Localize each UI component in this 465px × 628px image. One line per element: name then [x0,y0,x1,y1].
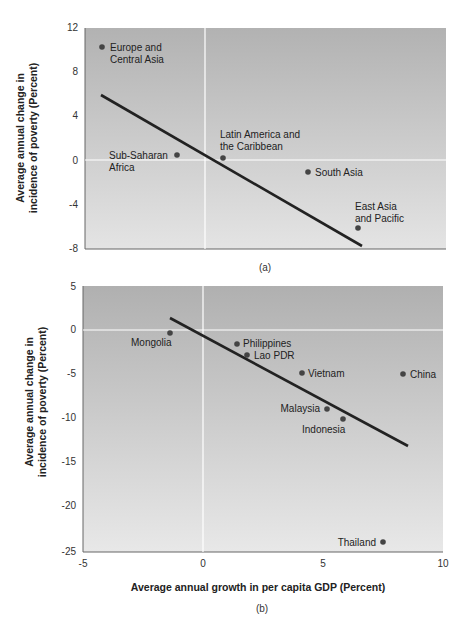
label-east-asia: East Asia [355,201,397,212]
ytick-b: -5 [67,368,76,379]
label-south-asia: South Asia [315,167,363,178]
point-lao [244,352,250,358]
label-east-asia: and Pacific [355,213,404,224]
point-east-asia [355,225,361,231]
label-mongolia: Mongolia [131,337,172,348]
chart-b: 5 0 -5 -10 -15 -20 -25 -5 0 5 10 Average… [23,281,449,614]
ytick-a: 12 [67,22,79,33]
point-ssa [174,152,180,158]
caption-a: (a) [259,262,271,273]
label-europe: Europe and [110,42,162,53]
point-lac [220,155,226,161]
label-lac: the Caribbean [220,141,283,152]
x-axis-label-b: Average annual growth in per capita GDP … [131,581,385,593]
ytick-a: -8 [69,243,78,254]
ytick-b: 5 [70,281,76,292]
svg-text:Average annual change in: Average annual change in [14,73,26,203]
label-thailand: Thailand [338,537,376,548]
y-axis-label-b: Average annual change in incidence of po… [23,327,48,478]
xtick-b: 0 [200,558,206,569]
ytick-b: -10 [62,412,77,423]
point-philippines [234,341,240,347]
ytick-a: 4 [72,110,78,121]
point-china [400,371,406,377]
point-vietnam [299,370,305,376]
point-thailand [380,539,386,545]
ytick-b: -25 [62,546,77,557]
point-europe [99,44,105,50]
point-mongolia [167,330,173,336]
point-malaysia [324,406,330,412]
ytick-a: 0 [72,155,78,166]
label-malaysia: Malaysia [281,403,321,414]
label-lao: Lao PDR [254,350,295,361]
label-ssa: Sub-Saharan [109,150,168,161]
point-indonesia [340,416,346,422]
figure: 12 8 4 0 -4 -8 Average annual change in … [0,0,465,628]
svg-text:incidence of poverty (Percent): incidence of poverty (Percent) [36,327,48,478]
xtick-b: 5 [320,558,326,569]
xtick-b: 10 [437,558,449,569]
plot-area-b [83,286,443,552]
ytick-b: -20 [62,500,77,511]
label-ssa: Africa [109,162,135,173]
label-china: China [410,369,437,380]
ytick-a: -4 [69,199,78,210]
ytick-b: -15 [62,456,77,467]
label-vietnam: Vietnam [308,368,345,379]
label-europe: Central Asia [110,54,164,65]
chart-a: 12 8 4 0 -4 -8 Average annual change in … [14,22,446,273]
svg-text:Average annual change in: Average annual change in [23,337,35,467]
label-lac: Latin America and [220,129,300,140]
label-indonesia: Indonesia [302,424,346,435]
label-philippines: Philippines [243,338,291,349]
y-axis-label-a: Average annual change in incidence of po… [14,63,39,214]
caption-b: (b) [256,603,268,614]
svg-text:incidence of poverty (Percent): incidence of poverty (Percent) [27,63,39,214]
ytick-b: 0 [70,324,76,335]
xtick-b: -5 [79,558,88,569]
ytick-a: 8 [72,66,78,77]
point-south-asia [305,169,311,175]
